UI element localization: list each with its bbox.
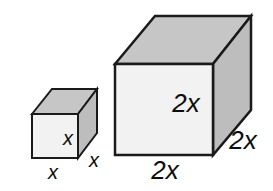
figure-container: x x x 2x 2x 2x bbox=[0, 0, 273, 191]
large-cube-width-label: 2x bbox=[150, 155, 179, 185]
small-cube-width-label: x bbox=[47, 161, 59, 183]
small-cube-depth-label: x bbox=[88, 149, 100, 171]
small-cube-height-label: x bbox=[62, 127, 74, 149]
small-cube: x x x bbox=[32, 89, 100, 183]
cube-comparison-diagram: x x x 2x 2x 2x bbox=[0, 0, 273, 191]
large-cube-height-label: 2x bbox=[171, 88, 200, 118]
large-cube: 2x 2x 2x bbox=[115, 16, 258, 185]
large-cube-depth-label: 2x bbox=[228, 125, 257, 155]
